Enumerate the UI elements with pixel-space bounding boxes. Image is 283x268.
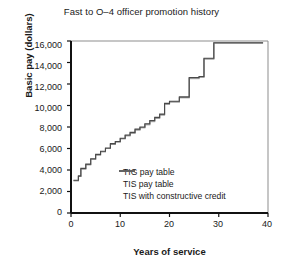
legend-swatch-tis-cc-icon bbox=[118, 166, 136, 176]
series-line bbox=[73, 43, 263, 180]
legend-label-tis: TIS pay table bbox=[123, 179, 174, 189]
series-line bbox=[73, 43, 263, 181]
legend-label-tis-cc: TIS with constructive credit bbox=[123, 191, 226, 201]
legend: TIG pay table TIS pay table TIS with con… bbox=[118, 166, 226, 202]
plot-area bbox=[0, 0, 283, 268]
data-series-layer bbox=[73, 43, 263, 181]
legend-item-tis[interactable]: TIS pay table bbox=[118, 178, 226, 190]
series-line bbox=[73, 43, 263, 181]
chart-container: Fast to O–4 officer promotion history Ba… bbox=[0, 0, 283, 268]
legend-item-tis-constructive-credit[interactable]: TIS with constructive credit bbox=[118, 190, 226, 202]
